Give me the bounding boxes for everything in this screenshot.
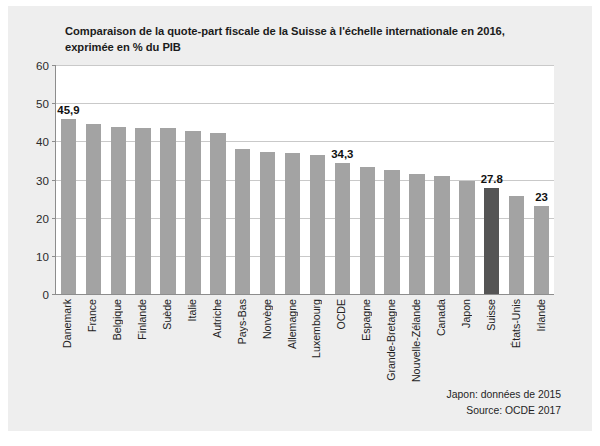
x-axis-label-france: France (86, 299, 98, 332)
bar-slot: 27.8 (484, 65, 499, 294)
chart-title-line-2: exprimée en % du PIB (65, 40, 565, 56)
bar-slot: 34,3 (335, 65, 350, 294)
x-axis-label-su-de: Suède (161, 299, 173, 330)
bar-belgique (111, 127, 126, 294)
bar-danemark (61, 119, 76, 294)
chart-annotations: Japon: données de 2015 Source: OCDE 2017 (447, 387, 561, 418)
bar-slot (310, 65, 325, 294)
x-axis-label-norv-ge: Norvège (261, 299, 273, 339)
y-axis-tick-label: 50 (36, 97, 49, 110)
x-axis-label-pays-bas: Pays-Bas (236, 299, 248, 344)
x-axis-label-espagne: Espagne (360, 299, 372, 341)
bar-series: 45,934,327.823 (56, 65, 554, 294)
bar-luxembourg (310, 155, 325, 294)
x-axis-label-grande-bretagne: Grande-Bretagne (385, 299, 397, 381)
y-axis-tick-mark (52, 294, 56, 295)
y-axis-tick-label: 0 (43, 288, 49, 301)
bar-value-label: 23 (535, 191, 548, 203)
x-axis-label-italie: Italie (186, 299, 198, 321)
y-axis-tick-label: 60 (36, 59, 49, 72)
bar-suisse (484, 188, 499, 294)
bar-slot (285, 65, 300, 294)
bar-autriche (210, 133, 225, 294)
bar-nouvelle-z-lande (409, 174, 424, 294)
x-axis-label-luxembourg: Luxembourg (310, 299, 322, 358)
x-axis-label-finlande: Finlande (136, 299, 148, 340)
x-axis-label-nouvelle-z-lande: Nouvelle-Zélande (410, 299, 422, 382)
y-axis-tick-label: 20 (36, 211, 49, 224)
bar-value-label: 45,9 (57, 104, 79, 116)
chart-figure: Comparaison de la quote-part fiscale de … (8, 6, 592, 431)
bar-slot (260, 65, 275, 294)
x-axis-label-irlande: Irlande (535, 299, 547, 331)
chart-title-line-1: Comparaison de la quote-part fiscale de … (65, 24, 565, 40)
x-axis-label-allemagne: Allemagne (286, 299, 298, 349)
bar-value-label: 27.8 (481, 173, 503, 185)
bar-italie (185, 131, 200, 294)
bar-irlande (534, 206, 549, 294)
bar-grande-bretagne (384, 170, 399, 294)
x-axis-label-japon: Japon (460, 299, 472, 328)
bar-slot (384, 65, 399, 294)
annotation-japon: Japon: données de 2015 (447, 387, 561, 403)
bar-value-label: 34,3 (331, 148, 353, 160)
bar-canada (434, 176, 449, 294)
bar-allemagne (285, 153, 300, 294)
annotation-source: Source: OCDE 2017 (447, 403, 561, 419)
bar-slot (459, 65, 474, 294)
bar-slot (434, 65, 449, 294)
x-axis-label--tats-unis: États-Unis (510, 299, 522, 348)
bar-slot (135, 65, 150, 294)
bar-slot (185, 65, 200, 294)
bar-slot (86, 65, 101, 294)
bar-espagne (360, 167, 375, 294)
y-axis-tick-label: 30 (36, 173, 49, 186)
x-axis-label-canada: Canada (435, 299, 447, 336)
bar-slot (360, 65, 375, 294)
bar-slot (409, 65, 424, 294)
bar-slot: 45,9 (61, 65, 76, 294)
bar-slot (210, 65, 225, 294)
x-axis-label-suisse: Suisse (485, 299, 497, 331)
plot-area: 0102030405060 45,934,327.823 (55, 65, 554, 295)
bar-slot: 23 (534, 65, 549, 294)
y-axis-tick-label: 10 (36, 249, 49, 262)
bar-france (86, 124, 101, 294)
x-axis-label-ocde: OCDE (335, 299, 347, 330)
x-axis-label-danemark: Danemark (61, 299, 73, 348)
bar-japon (459, 181, 474, 294)
bar--tats-unis (509, 196, 524, 294)
bar-norv-ge (260, 152, 275, 294)
y-axis-tick-label: 40 (36, 135, 49, 148)
bar-pays-bas (235, 149, 250, 294)
bar-finlande (135, 128, 150, 294)
bar-su-de (160, 128, 175, 294)
x-axis-label-belgique: Belgique (111, 299, 123, 340)
x-axis-label-autriche: Autriche (211, 299, 223, 338)
bar-slot (160, 65, 175, 294)
bar-slot (509, 65, 524, 294)
bar-ocde (335, 163, 350, 294)
bar-slot (111, 65, 126, 294)
bar-slot (235, 65, 250, 294)
chart-title: Comparaison de la quote-part fiscale de … (65, 24, 565, 56)
